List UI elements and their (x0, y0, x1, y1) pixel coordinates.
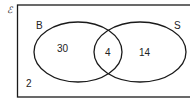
region-only-s: 14 (139, 47, 151, 58)
universal-set-symbol: ℰ (7, 5, 14, 15)
set-b-label: B (36, 20, 43, 31)
venn-diagram: ℰ B S 30 4 14 2 (0, 0, 190, 100)
region-both: 4 (105, 47, 111, 58)
region-neither: 2 (26, 78, 32, 89)
region-only-b: 30 (57, 43, 69, 54)
universal-set-rectangle (18, 5, 191, 97)
set-s-label: S (174, 20, 181, 31)
